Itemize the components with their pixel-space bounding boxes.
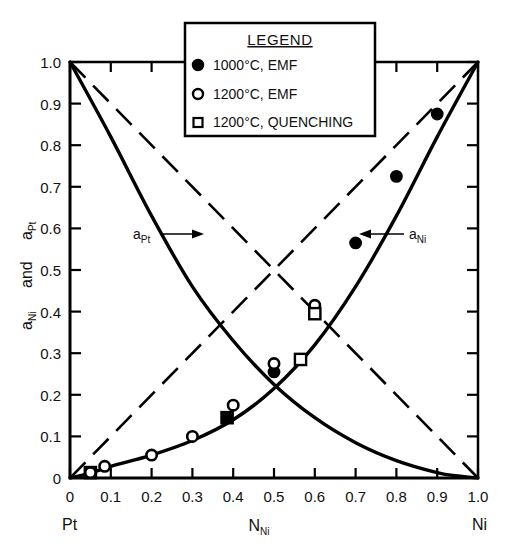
y-tick-label: 0.4	[40, 304, 61, 321]
x-tick-label: 1.0	[468, 488, 489, 505]
x-tick-label: 0.2	[141, 488, 162, 505]
marker-filled-circle	[221, 412, 232, 423]
x-tick-label: 0.8	[386, 488, 407, 505]
x-tick-label: 0.6	[304, 488, 325, 505]
marker-open-circle	[146, 450, 156, 460]
y-tick-label: 0.6	[40, 220, 61, 237]
marker-filled-circle	[391, 171, 402, 182]
marker-open-square	[295, 354, 306, 365]
marker-open-circle	[99, 461, 109, 471]
y-tick-label: 0.3	[40, 345, 61, 362]
activity-diagram-figure: 00.10.20.30.40.50.60.70.80.91.000.10.20.…	[0, 0, 520, 555]
x-tick-label: 0.1	[100, 488, 121, 505]
x-tick-label: 0	[66, 488, 74, 505]
y-tick-label: 0.2	[40, 387, 61, 404]
x-tick-label: 0.3	[182, 488, 203, 505]
y-tick-label: 1.0	[40, 54, 61, 71]
x-axis-endpoint-left-pt: Pt	[62, 516, 78, 533]
filled-circle-icon	[193, 60, 204, 71]
x-tick-label: 0.5	[264, 488, 285, 505]
open-square-icon	[194, 118, 203, 127]
marker-open-circle	[187, 431, 197, 441]
x-axis-endpoint-right-ni: Ni	[472, 516, 487, 533]
x-tick-label: 0.4	[223, 488, 244, 505]
open-circle-icon	[193, 89, 203, 99]
marker-open-circle	[269, 358, 279, 368]
legend: LEGEND 1000°C, EMF 1200°C, EMF 1200°C, Q…	[185, 23, 375, 136]
x-tick-label: 0.9	[427, 488, 448, 505]
y-tick-label: 0	[53, 470, 61, 487]
chart-canvas: 00.10.20.30.40.50.60.70.80.91.000.10.20.…	[0, 0, 520, 555]
legend-entry-1000c-emf-label: 1000°C, EMF	[213, 57, 297, 73]
y-tick-label: 0.1	[40, 428, 61, 445]
y-tick-label: 0.8	[40, 137, 61, 154]
marker-open-circle	[85, 467, 95, 477]
y-tick-label: 0.5	[40, 262, 61, 279]
y-tick-label: 0.7	[40, 179, 61, 196]
marker-open-circle	[228, 400, 238, 410]
legend-title: LEGEND	[247, 31, 312, 48]
marker-filled-circle	[350, 237, 361, 248]
y-axis-title-and: and	[18, 261, 35, 288]
marker-open-square	[309, 308, 320, 319]
legend-entry-1200c-emf-label: 1200°C, EMF	[213, 86, 297, 102]
y-tick-label: 0.9	[40, 96, 61, 113]
legend-entry-1200c-quenching: 1200°C, QUENCHING	[194, 114, 354, 130]
marker-filled-circle	[432, 108, 443, 119]
x-tick-label: 0.7	[345, 488, 366, 505]
legend-entry-1200c-quenching-label: 1200°C, QUENCHING	[213, 114, 353, 130]
